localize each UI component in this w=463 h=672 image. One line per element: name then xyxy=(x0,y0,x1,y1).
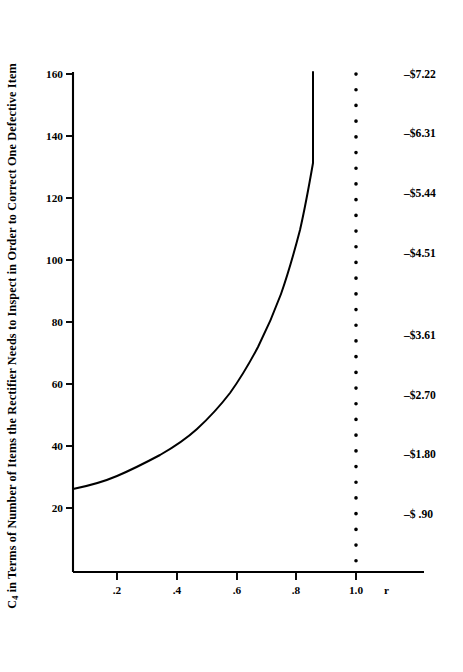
chart-figure: C4 in Terms of Number of Items the Recti… xyxy=(0,0,463,672)
c4-curve xyxy=(73,72,313,489)
plot-area xyxy=(0,0,463,672)
x-axis-ticks xyxy=(117,572,356,580)
